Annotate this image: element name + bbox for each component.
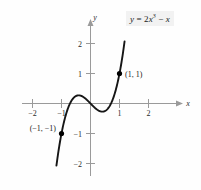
y-tick-label-neg2: −2 xyxy=(73,160,82,169)
equation-exponent: 3 xyxy=(153,13,156,19)
y-tick-label-neg1: −1 xyxy=(73,130,82,139)
y-axis-label: y xyxy=(92,13,97,22)
point-label-neg1-neg1: (−1, −1) xyxy=(30,124,57,133)
x-axis xyxy=(22,101,183,107)
data-point-1-1 xyxy=(117,71,122,76)
x-tick-label-neg2: −2 xyxy=(28,109,37,118)
equation-minus: − xyxy=(158,14,163,24)
x-axis-label: x xyxy=(185,99,190,108)
function-plot-figure: −2 −1 1 2 2 1 −1 −2 x y (1, 1) (−1, −1) … xyxy=(0,0,201,190)
equation-equals: = xyxy=(136,14,141,24)
equation-label: y = 2x3 − x xyxy=(126,11,174,26)
equation-trailing-variable: x xyxy=(166,14,170,24)
x-axis-arrowhead xyxy=(176,101,183,107)
y-tick-label-2: 2 xyxy=(78,40,82,49)
data-point-neg1-neg1 xyxy=(59,131,64,136)
y-axis xyxy=(88,19,94,176)
point-label-1-1: (1, 1) xyxy=(125,70,143,79)
plot-canvas: −2 −1 1 2 2 1 −1 −2 x y (1, 1) (−1, −1) xyxy=(0,0,201,190)
y-tick-label-1: 1 xyxy=(78,70,82,79)
equation-lhs: y xyxy=(130,14,134,24)
x-tick-label-1: 1 xyxy=(118,109,122,118)
x-tick-label-2: 2 xyxy=(147,109,151,118)
